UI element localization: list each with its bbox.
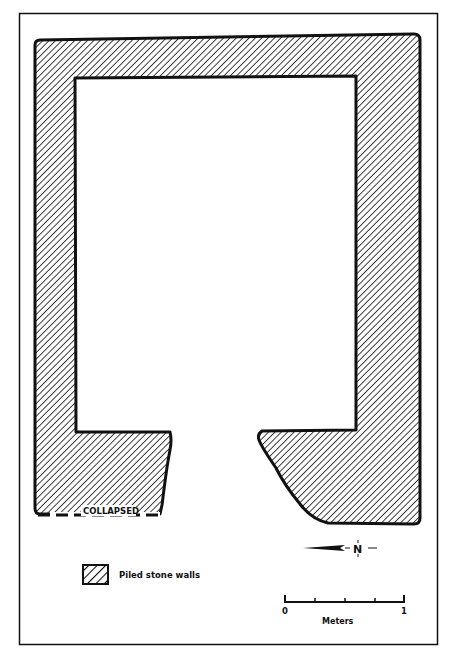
legend-label: Piled stone walls: [119, 570, 200, 580]
scale-bar: 0 1 Meters: [282, 595, 407, 626]
scale-end-label: 1: [401, 606, 407, 616]
wall-outline: [35, 34, 420, 524]
north-label: N: [353, 543, 362, 556]
legend-hatch-swatch: [83, 565, 108, 584]
site-plan-diagram: COLLAPSED N Piled stone walls 0 1 Meters: [0, 0, 454, 663]
collapsed-label: COLLAPSED: [83, 506, 139, 516]
scale-unit-label: Meters: [322, 617, 354, 626]
north-arrow-icon: N: [303, 540, 377, 557]
legend: Piled stone walls: [83, 565, 200, 584]
stone-walls: [35, 34, 420, 524]
scale-start-label: 0: [282, 606, 288, 616]
